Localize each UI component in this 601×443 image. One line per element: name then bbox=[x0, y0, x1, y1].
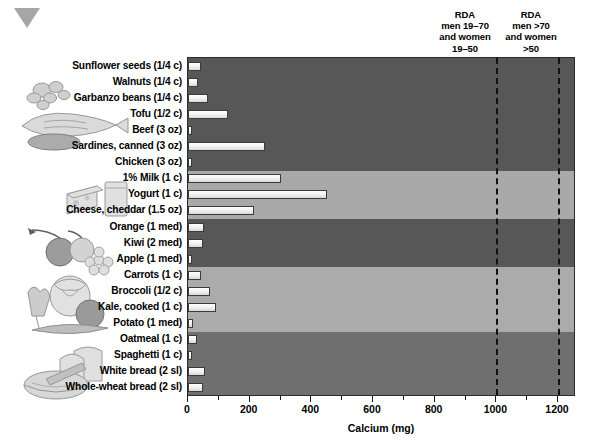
bar bbox=[188, 367, 205, 376]
bar bbox=[188, 351, 192, 360]
bar bbox=[188, 383, 203, 392]
axis-tick bbox=[372, 396, 373, 402]
bar bbox=[188, 94, 208, 103]
band-protein-foods bbox=[188, 58, 574, 171]
axis-tick bbox=[249, 396, 250, 402]
rda-annotation-1200mg-line3: and women bbox=[500, 31, 562, 42]
axis-tick-minor bbox=[218, 396, 219, 400]
rda-reference-line-1200mg bbox=[558, 58, 560, 395]
bar bbox=[188, 271, 201, 280]
band-vegetables bbox=[188, 267, 574, 331]
category-label: Apple (1 med) bbox=[117, 252, 182, 265]
category-label: Broccoli (1/2 c) bbox=[111, 284, 182, 297]
bar bbox=[188, 158, 192, 167]
axis-tick-minor bbox=[403, 396, 404, 400]
category-label: Walnuts (1/4 c) bbox=[113, 75, 182, 88]
category-label: Beef (3 oz) bbox=[132, 123, 182, 136]
category-label: Oatmeal (1 c) bbox=[120, 332, 182, 345]
bar bbox=[188, 255, 192, 264]
axis-tick-label: 400 bbox=[302, 403, 320, 415]
rda-annotation-1000mg-line2: men 19–70 bbox=[434, 20, 496, 31]
band-fruits bbox=[188, 219, 574, 267]
axis-tick-minor bbox=[341, 396, 342, 400]
category-label: Garbanzo beans (1/4 c) bbox=[74, 91, 182, 104]
rda-annotation-1000mg: RDA men 19–70 and women 19–50 bbox=[434, 9, 496, 54]
bar bbox=[188, 78, 198, 87]
axis-tick bbox=[187, 396, 188, 402]
rda-annotation-1000mg-line3: and women bbox=[434, 31, 496, 42]
rda-annotation-1200mg: RDA men >70 and women >50 bbox=[500, 9, 562, 54]
bar bbox=[188, 206, 254, 215]
category-label: Kale, cooked (1 c) bbox=[98, 300, 182, 313]
axis-tick-minor bbox=[280, 396, 281, 400]
triangle-down-marker bbox=[14, 8, 40, 28]
x-axis-title: Calcium (mg) bbox=[187, 422, 575, 434]
category-label: Sardines, canned (3 oz) bbox=[72, 139, 182, 152]
bar bbox=[188, 142, 265, 151]
rda-annotation-1000mg-line1: RDA bbox=[434, 9, 496, 20]
rda-annotation-1000mg-line4: 19–50 bbox=[434, 43, 496, 54]
plot-area bbox=[187, 57, 575, 396]
category-label: 1% Milk (1 c) bbox=[123, 171, 182, 184]
bar bbox=[188, 174, 281, 183]
category-label: Sunflower seeds (1/4 c) bbox=[72, 59, 182, 72]
category-label: Whole-wheat bread (2 sl) bbox=[66, 380, 182, 393]
bar bbox=[188, 239, 203, 248]
category-label: Spaghetti (1 c) bbox=[114, 348, 182, 361]
rda-reference-line-1000mg bbox=[496, 58, 498, 395]
bar bbox=[188, 190, 327, 199]
category-axis-labels: Sunflower seeds (1/4 c)Walnuts (1/4 c)Ga… bbox=[0, 57, 185, 396]
value-axis: 020040060080010001200 bbox=[187, 396, 575, 406]
bar bbox=[188, 62, 201, 71]
bar bbox=[188, 287, 210, 296]
rda-annotation-1200mg-line2: men >70 bbox=[500, 20, 562, 31]
category-label: Yogurt (1 c) bbox=[128, 187, 182, 200]
axis-tick-label: 1000 bbox=[484, 403, 507, 415]
bar bbox=[188, 303, 216, 312]
bar bbox=[188, 223, 204, 232]
category-label: Orange (1 med) bbox=[109, 220, 182, 233]
calcium-content-bar-chart: RDA men 19–70 and women 19–50 RDA men >7… bbox=[0, 0, 601, 443]
axis-tick-label: 800 bbox=[425, 403, 443, 415]
category-label: Tofu (1/2 c) bbox=[130, 107, 182, 120]
axis-tick bbox=[434, 396, 435, 402]
bar bbox=[188, 319, 193, 328]
category-label: Carrots (1 c) bbox=[124, 268, 182, 281]
axis-tick-minor bbox=[465, 396, 466, 400]
axis-tick-label: 200 bbox=[240, 403, 258, 415]
rda-annotation-1200mg-line1: RDA bbox=[500, 9, 562, 20]
category-label: Cheese, cheddar (1.5 oz) bbox=[66, 203, 182, 216]
axis-tick-label: 0 bbox=[184, 403, 190, 415]
category-label: Kiwi (2 med) bbox=[124, 236, 182, 249]
axis-tick bbox=[310, 396, 311, 402]
category-label: White bread (2 sl) bbox=[100, 364, 182, 377]
axis-tick-minor bbox=[526, 396, 527, 400]
bar bbox=[188, 110, 228, 119]
category-label: Potato (1 med) bbox=[113, 316, 182, 329]
band-grains bbox=[188, 332, 574, 396]
bar bbox=[188, 126, 192, 135]
axis-tick bbox=[495, 396, 496, 402]
axis-tick-label: 1200 bbox=[545, 403, 568, 415]
axis-tick bbox=[557, 396, 558, 402]
bar bbox=[188, 335, 197, 344]
category-label: Chicken (3 oz) bbox=[115, 155, 182, 168]
rda-annotation-1200mg-line4: >50 bbox=[500, 43, 562, 54]
axis-tick-label: 600 bbox=[363, 403, 381, 415]
